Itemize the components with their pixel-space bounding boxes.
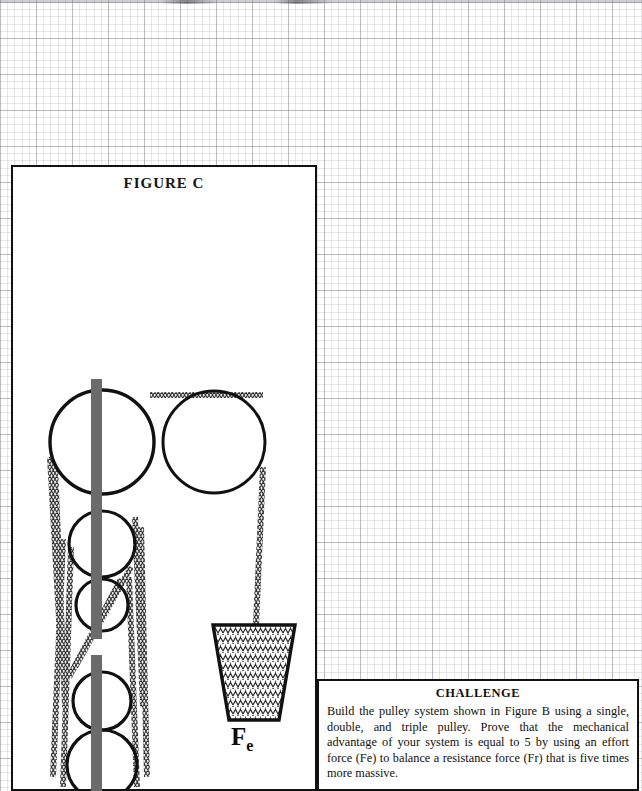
rope-to-effort-bucket [256,467,263,625]
paper-top-cropped-text [160,0,380,4]
label-effort-sub: e [246,737,253,754]
label-effort-force: Fe [231,723,253,755]
pulley-top-right-large [163,391,265,493]
lower-axle-bar-front [91,655,102,791]
challenge-title: CHALLENGE [327,686,629,701]
effort-bucket [213,625,295,720]
upper-axle-bar-front [91,379,102,639]
pulley-system-diagram [13,167,319,791]
challenge-body-text: Build the pulley system shown in Figure … [327,704,629,782]
label-effort-base: F [231,723,246,750]
challenge-panel: CHALLENGE Build the pulley system shown … [317,679,639,791]
rope-right-strand-2 [141,527,147,777]
figure-c-panel: FIGURE C [11,165,317,791]
